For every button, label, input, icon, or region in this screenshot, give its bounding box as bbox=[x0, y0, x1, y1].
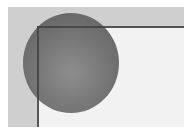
horizontal-line bbox=[37, 26, 184, 28]
vertical-line bbox=[37, 26, 39, 127]
